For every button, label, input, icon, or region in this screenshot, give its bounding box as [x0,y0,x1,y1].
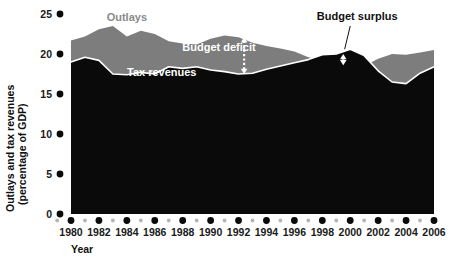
x-tick-dot [403,217,410,224]
x-tick-dot-minor [418,219,422,223]
x-tick-label: 2000 [339,226,363,238]
x-tick-dot [123,217,130,224]
y-tick-label: 25 [40,8,52,20]
x-tick-label: 1980 [59,226,83,238]
x-tick-label: 1994 [255,226,279,238]
x-tick-dot [431,217,438,224]
y-tick-label: 5 [46,168,52,180]
x-tick-label: 1982 [87,226,111,238]
x-tick-dot-minor [334,219,338,223]
outlays-label: Outlays [107,11,147,23]
x-tick-dot-minor [55,219,59,223]
x-tick-dot [68,217,75,224]
x-tick-dot-minor [390,219,394,223]
x-tick-dot-minor [195,219,199,223]
x-tick-dot-minor [167,219,171,223]
x-tick-label: 2004 [394,226,418,238]
x-tick-dot-minor [223,219,227,223]
x-tick-dot [235,217,242,224]
y-tick-dot [57,131,64,138]
x-tick-label: 1988 [171,226,195,238]
x-tick-dot [179,217,186,224]
y-tick-dot [57,91,64,98]
budget-surplus-label: Budget surplus [317,10,398,22]
x-tick-label: 1996 [283,226,307,238]
y-tick-dot [57,11,64,18]
y-axis-title-line1: Outlays and tax revenues [4,85,16,212]
chart-figure: 0510152025 19801982198419861988199019921… [0,0,454,263]
y-tick-label: 15 [40,88,52,100]
y-tick-dot [57,51,64,58]
x-tick-dot [347,217,354,224]
x-axis-title: Year [71,243,93,255]
x-tick-dot [151,217,158,224]
x-tick-dot [96,217,103,224]
x-tick-dot [375,217,382,224]
x-tick-label: 1984 [115,226,139,238]
tax-revenues-label: Tax revenues [127,66,197,78]
x-tick-label: 2002 [366,226,390,238]
x-tick-dot [207,217,214,224]
x-tick-dot-minor [362,219,366,223]
x-tick-dot [263,217,270,224]
y-tick-dot [57,211,64,218]
x-tick-label: 1990 [199,226,223,238]
x-tick-dot-minor [306,219,310,223]
x-tick-dot-minor [139,219,143,223]
x-tick-dot-minor [279,219,283,223]
x-tick-dot-minor [83,219,87,223]
x-tick-dot-minor [251,219,255,223]
x-tick-label: 1998 [311,226,335,238]
y-axis-title: Outlays and tax revenues (percentage of … [4,85,28,212]
y-tick-dot [57,171,64,178]
y-tick-label: 0 [46,208,52,220]
x-tick-dot-minor [111,219,115,223]
x-tick-dot [319,217,326,224]
x-tick-label: 1986 [143,226,167,238]
x-tick-dot [291,217,298,224]
y-axis-title-line2: (percentage of GDP) [16,103,28,205]
x-tick-label: 1992 [227,226,251,238]
x-tick-label: 2006 [422,226,446,238]
area-chart: 0510152025 19801982198419861988199019921… [0,0,454,263]
y-tick-label: 10 [40,128,52,140]
y-tick-label: 20 [40,48,52,60]
